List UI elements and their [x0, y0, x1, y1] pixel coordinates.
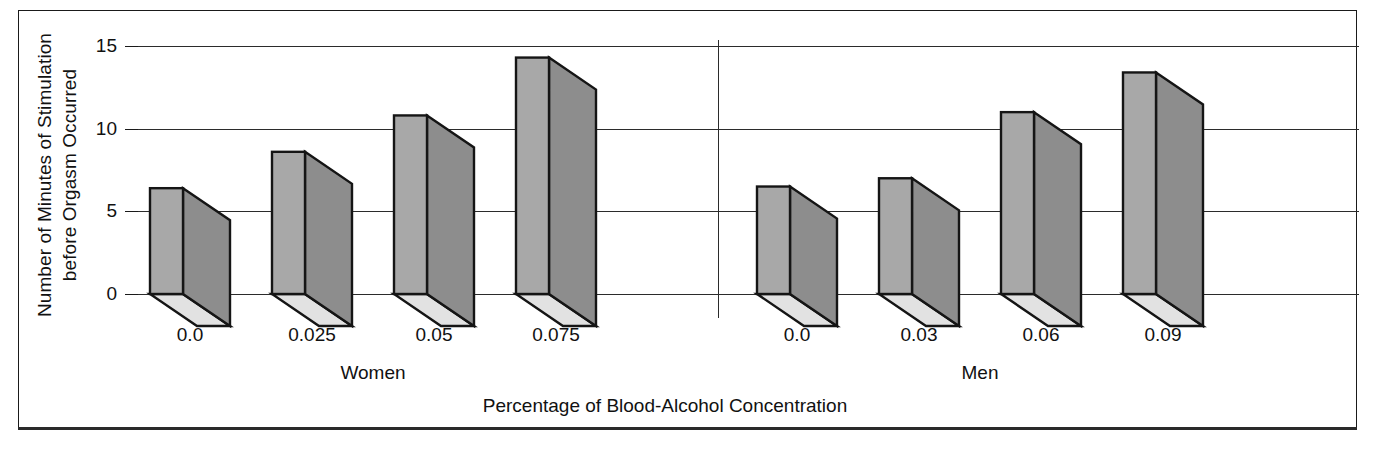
x-tick-label-women-0: 0.0	[130, 325, 250, 344]
y-tick-10	[125, 129, 138, 130]
bar-front-face	[394, 115, 427, 294]
bar-front-face	[516, 58, 549, 294]
y-axis-tick-labels: 051015	[85, 0, 117, 450]
y-tick-5	[125, 211, 138, 212]
x-tick-label-women-2: 0.05	[374, 325, 494, 344]
bar-front-face	[757, 187, 790, 294]
y-tick-label-15: 15	[89, 36, 117, 55]
x-tick-label-women-3: 0.075	[496, 325, 616, 344]
y-tick-label-5: 5	[89, 201, 117, 220]
x-tick-label-men-1: 0.03	[859, 325, 979, 344]
y-tick-0	[125, 294, 138, 295]
x-tick-label-women-1: 0.025	[252, 325, 372, 344]
x-tick-label-men-0: 0.0	[737, 325, 857, 344]
y-tick-label-0: 0	[89, 284, 117, 303]
y-axis-title-line-1: Number of Minutes of Stimulation	[32, 30, 57, 320]
y-tick-15	[125, 46, 138, 47]
bar-front-face	[272, 152, 305, 294]
x-tick-label-men-3: 0.09	[1103, 325, 1223, 344]
bar-side-face	[305, 152, 352, 326]
chart-plot-area: Number of Minutes of Stimulation before …	[0, 0, 1375, 450]
group-label-men: Men	[860, 363, 1100, 382]
bar-men-0.06	[1001, 0, 1085, 450]
group-divider-line	[718, 40, 719, 318]
bar-women-0.05	[394, 0, 478, 450]
x-tick-label-men-2: 0.06	[981, 325, 1101, 344]
bar-women-0.075	[516, 0, 600, 450]
bar-side-face	[549, 58, 596, 326]
bar-side-face	[427, 115, 474, 326]
y-axis-title-line-2: before Orgasm Occurred	[57, 30, 82, 320]
bar-front-face	[1001, 112, 1034, 294]
bar-men-0.0	[757, 0, 841, 450]
bar-women-0.0	[150, 0, 234, 450]
bar-front-face	[879, 178, 912, 294]
bar-side-face	[1156, 72, 1203, 326]
bar-front-face	[150, 188, 183, 294]
group-label-women: Women	[253, 363, 493, 382]
bar-men-0.03	[879, 0, 963, 450]
x-axis-title: Percentage of Blood-Alcohol Concentratio…	[120, 396, 1210, 415]
y-tick-label-10: 10	[89, 119, 117, 138]
bar-front-face	[1123, 72, 1156, 294]
bar-men-0.09	[1123, 0, 1207, 450]
y-axis-title: Number of Minutes of Stimulation before …	[32, 30, 82, 320]
bar-side-face	[1034, 112, 1081, 326]
